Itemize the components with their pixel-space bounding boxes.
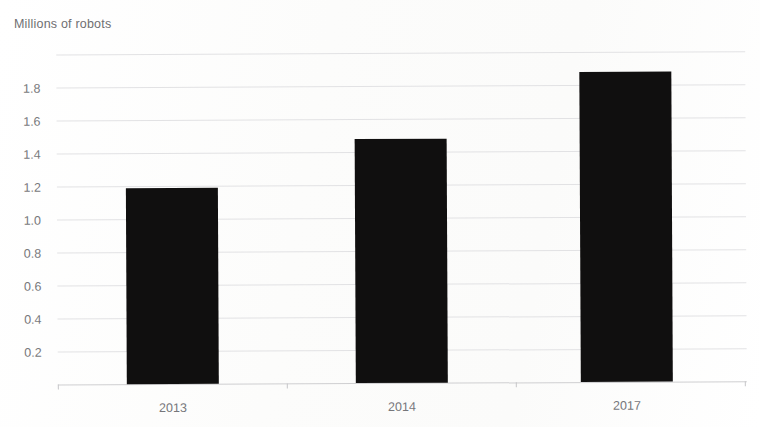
- x-tick-label-2017: 2017: [587, 400, 667, 413]
- bar-chart: Millions of robots 1.8 1.6 1.4 1.2 1.0 0…: [0, 0, 760, 427]
- x-tick-boundary-3: [745, 381, 746, 386]
- plot-tilt-wrapper: 1.8 1.6 1.4 1.2 1.0 0.8 0.6 0.4 0.2 2013…: [0, 0, 760, 427]
- y-tick-label-1.2: 1.2: [7, 182, 41, 195]
- y-tick-label-1.6: 1.6: [7, 116, 41, 129]
- x-tick-label-2013: 2013: [133, 402, 213, 415]
- y-tick-label-1.8: 1.8: [6, 83, 40, 96]
- bar-2013: [126, 187, 219, 384]
- y-tick-label-0.2: 0.2: [8, 347, 42, 360]
- x-tick-boundary-1: [287, 383, 288, 388]
- y-tick-label-0.8: 0.8: [7, 248, 41, 261]
- x-tick-boundary-0: [58, 385, 59, 390]
- gridline-2.0: [56, 51, 745, 55]
- plot-area: 1.8 1.6 1.4 1.2 1.0 0.8 0.6 0.4 0.2 2013…: [56, 51, 747, 384]
- y-tick-label-1.4: 1.4: [7, 149, 41, 162]
- x-tick-label-2014: 2014: [362, 401, 442, 414]
- y-tick-label-1.0: 1.0: [7, 215, 41, 228]
- y-tick-label-0.6: 0.6: [7, 281, 41, 294]
- bar-2014: [355, 138, 448, 383]
- bar-2017: [579, 71, 673, 382]
- y-tick-label-0.4: 0.4: [7, 314, 41, 327]
- x-tick-boundary-2: [516, 382, 517, 387]
